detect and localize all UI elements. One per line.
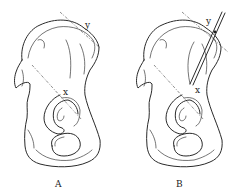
ischium-line-a — [36, 150, 92, 161]
obturator-foramen-b — [173, 133, 202, 156]
acetabulum-rim-a — [44, 95, 78, 134]
panel-a: x y A — [15, 12, 101, 189]
dashed-line-x-a — [32, 65, 82, 120]
obturator-foramen-a — [51, 133, 80, 156]
hip-bone-diagram: x y A x y B — [0, 0, 243, 193]
label-y-a: y — [84, 20, 91, 30]
entry-point-y — [214, 31, 217, 34]
ischium-line-b — [158, 150, 214, 161]
ischium-line-b-2 — [150, 130, 156, 148]
obturator-inner-b — [177, 137, 186, 146]
panel-b: x y B — [137, 12, 229, 189]
caption-a: A — [54, 179, 62, 189]
obturator-inner-a — [55, 137, 64, 146]
bone-outline-b — [137, 20, 223, 167]
acetabulum-rim-b — [166, 95, 200, 134]
caption-b: B — [176, 179, 183, 189]
ridge-b-1 — [160, 39, 167, 48]
ridge-a-1 — [38, 39, 45, 48]
acetabulum-inner-a — [57, 108, 64, 121]
label-y-b: y — [205, 16, 212, 26]
ridge-a-3 — [80, 44, 85, 74]
acetabulum-inner-b — [179, 108, 186, 121]
ischium-line-a-2 — [28, 130, 34, 148]
label-x-a: x — [63, 87, 68, 97]
dashed-tangent-y-b — [182, 12, 228, 52]
iliac-crest-inner-a — [28, 27, 95, 58]
ridge-a-2 — [66, 40, 71, 78]
label-x-b: x — [195, 85, 200, 95]
bone-outline-a — [15, 20, 101, 167]
